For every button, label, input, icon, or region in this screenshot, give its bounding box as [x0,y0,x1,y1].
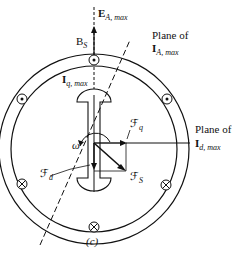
conductor-cross-bottom [89,222,99,232]
label-plane-ia-line1: Plane of [152,30,188,41]
conductor-cross-right [161,180,171,190]
conductor-cross-left [17,179,27,189]
conductor-dot-left [17,94,27,104]
label-plane-id-line1: Plane of [195,124,231,135]
fd-leader [50,165,90,176]
label-plane-ia: IA, max [152,43,179,58]
label-plane-id: Id, max [195,138,221,153]
label-fs: ℱS [130,171,143,186]
label-omega: ω [72,140,80,151]
label-ea-max: EA, max [98,8,128,23]
label-iq-max: Iq, max [62,74,88,89]
conductor-dot-right [162,94,172,104]
conductor-dot-top [89,55,99,65]
label-bs: BS [76,36,87,51]
panel-label: (c) [86,236,98,247]
label-fd: ℱd [40,168,53,183]
label-fq: ℱq [130,118,143,133]
bs-arrowhead-icon [91,26,97,33]
